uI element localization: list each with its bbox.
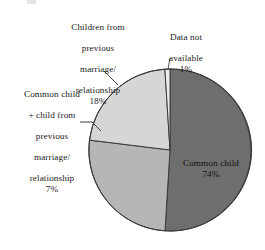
label-percent: 74% bbox=[165, 169, 257, 179]
label-percent: 7% bbox=[2, 184, 102, 194]
label-percent: 1% bbox=[148, 64, 224, 74]
label-common-child: Common child 74% bbox=[165, 148, 257, 190]
label-line: relationship bbox=[30, 173, 75, 183]
label-line: Common child bbox=[24, 89, 80, 99]
label-line: Data not bbox=[170, 32, 202, 42]
label-line: available bbox=[169, 53, 203, 63]
label-line: marriage/ bbox=[80, 64, 116, 74]
label-common-plus-previous: Common child + child from previous marri… bbox=[2, 79, 102, 205]
label-line: previous bbox=[82, 43, 114, 53]
label-line: previous bbox=[36, 131, 68, 141]
pie-chart-figure: Children from previous marriage/ relatio… bbox=[0, 0, 265, 250]
label-line: marriage/ bbox=[34, 152, 70, 162]
label-line: Common child bbox=[183, 158, 239, 168]
label-line: + child from bbox=[28, 110, 75, 120]
label-data-not-available: Data not available 1% bbox=[148, 22, 224, 85]
label-line: Children from bbox=[71, 22, 125, 32]
